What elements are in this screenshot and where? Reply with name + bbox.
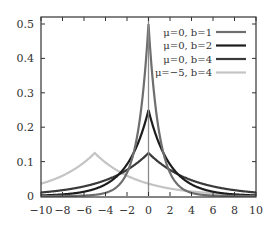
x-tick-label: 10 [249,204,263,217]
y-tick-label: 0.5 [17,18,35,31]
x-tick-label: 0 [145,204,152,217]
legend-label: μ=0, b=1 [163,27,212,38]
x-tick-label: −4 [97,204,113,217]
x-tick-label: −8 [54,204,70,217]
y-tick-label: 0 [27,190,34,203]
legend-label: μ=0, b=2 [163,40,212,51]
legend-label: μ=0, b=4 [163,54,212,65]
laplace-pdf-chart: −10−8−6−4−20246810 00.10.20.30.40.5 μ=0,… [0,0,274,230]
y-tick-label: 0.4 [17,52,35,65]
legend-label: μ=−5, b=4 [155,67,212,78]
y-tick-label: 0.2 [17,121,35,134]
x-tick-label: −2 [119,204,135,217]
legend: μ=0, b=1μ=0, b=2μ=0, b=4μ=−5, b=4 [155,27,246,79]
x-tick-label: 2 [167,204,174,217]
y-tick-label: 0.3 [17,87,35,100]
x-tick-label: −10 [29,204,52,217]
y-tick-label: 0.1 [17,156,35,169]
x-tick-label: 6 [210,204,217,217]
x-tick-label: −6 [76,204,92,217]
x-tick-label: 4 [188,204,195,217]
x-tick-label: 8 [231,204,238,217]
